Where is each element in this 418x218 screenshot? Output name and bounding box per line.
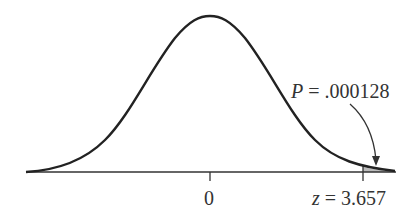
p-value-annotation: P = .000128 — [290, 80, 390, 102]
tick-label-z: z = 3.657 — [311, 187, 386, 209]
z-variable: z — [311, 187, 320, 209]
arrowhead-icon — [372, 156, 380, 166]
normal-curve-chart: 0 z = 3.657 P = .000128 — [0, 0, 418, 218]
p-value: = .000128 — [303, 80, 389, 102]
p-variable: P — [290, 80, 303, 102]
annotation-arrow — [350, 104, 376, 160]
z-value: = 3.657 — [320, 187, 386, 209]
tick-label-zero: 0 — [204, 187, 214, 209]
